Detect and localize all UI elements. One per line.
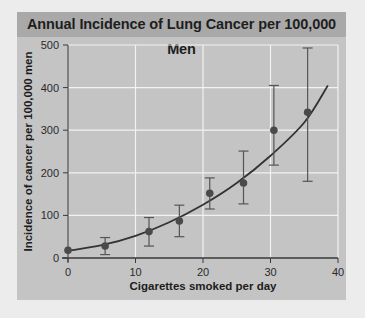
x-tick-label: 20 <box>197 266 209 278</box>
y-tick-label: 200 <box>41 167 59 179</box>
y-tick-label: 500 <box>41 39 59 51</box>
data-point <box>270 126 278 134</box>
x-tick-label: 0 <box>65 266 71 278</box>
data-point <box>240 179 248 187</box>
data-point <box>64 247 72 255</box>
y-tick-label: 0 <box>53 252 59 264</box>
data-point <box>101 242 109 250</box>
data-point <box>176 217 184 225</box>
data-point <box>206 189 214 197</box>
y-axis-label: Incidence of cancer per 100,000 men <box>22 51 34 251</box>
x-tick-label: 10 <box>129 266 141 278</box>
x-axis-label: Cigarettes smoked per day <box>129 280 277 292</box>
y-tick-label: 400 <box>41 82 59 94</box>
x-tick-label: 30 <box>264 266 276 278</box>
fitted-curve <box>68 85 328 250</box>
data-point <box>304 109 312 117</box>
y-tick-label: 100 <box>41 209 59 221</box>
data-point <box>145 228 153 236</box>
y-tick-label: 300 <box>41 124 59 136</box>
x-tick-label: 40 <box>332 266 344 278</box>
chart-plot: 0100200300400500010203040Cigarettes smok… <box>0 0 365 318</box>
